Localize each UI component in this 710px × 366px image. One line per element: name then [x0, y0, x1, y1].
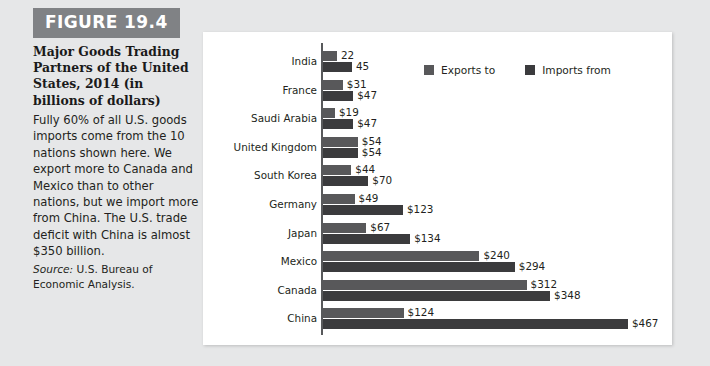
figure-container: FIGURE 19.4 Major Goods Trading Partners…	[0, 0, 710, 366]
bar-value-label: $67	[370, 221, 390, 233]
legend-item-exports: Exports to	[424, 64, 495, 76]
bar-value-label: $134	[414, 232, 440, 244]
bar-row: United Kingdom$54$54	[203, 137, 672, 164]
legend-item-imports: Imports from	[525, 64, 611, 76]
bar-imports	[323, 119, 354, 129]
bar-imports	[323, 291, 551, 301]
bar-row: Germany$49$123	[203, 194, 672, 221]
category-label: France	[117, 84, 317, 96]
bar-exports	[323, 165, 352, 175]
bar-value-label: $47	[357, 89, 377, 101]
bar-exports	[323, 108, 335, 118]
bar-imports	[323, 91, 354, 101]
chart-legend: Exports toImports from	[424, 64, 611, 76]
bar-exports	[323, 80, 343, 90]
bar-value-label: $19	[339, 106, 359, 118]
bar-row: France$31$47	[203, 80, 672, 107]
bar-value-label: 45	[356, 60, 369, 72]
bar-value-label: $124	[408, 306, 434, 318]
category-label: India	[117, 55, 317, 67]
bar-exports	[323, 223, 367, 233]
legend-label: Exports to	[441, 64, 495, 76]
bar-value-label: $49	[359, 192, 379, 204]
figure-number-badge: FIGURE 19.4	[33, 8, 180, 38]
bar-exports	[323, 51, 337, 61]
bar-exports	[323, 251, 480, 261]
bar-value-label: $240	[483, 249, 509, 261]
category-label: United Kingdom	[117, 141, 317, 153]
legend-swatch-icon	[525, 65, 535, 75]
bar-value-label: $312	[531, 278, 557, 290]
bar-value-label: $294	[519, 260, 545, 272]
category-label: Canada	[117, 284, 317, 296]
category-label: Mexico	[117, 255, 317, 267]
legend-label: Imports from	[542, 64, 611, 76]
bar-imports	[323, 176, 369, 186]
bar-row: Japan$67$134	[203, 223, 672, 250]
bar-value-label: $70	[372, 174, 392, 186]
bar-exports	[323, 280, 527, 290]
category-label: Germany	[117, 198, 317, 210]
bar-exports	[323, 194, 355, 204]
bar-row: South Korea$44$70	[203, 165, 672, 192]
bar-value-label: 22	[341, 49, 354, 61]
figure-title: Major Goods Trading Partners of the Unit…	[33, 44, 195, 109]
source-label: Source:	[33, 263, 73, 275]
bar-imports	[323, 262, 515, 272]
category-label: South Korea	[117, 169, 317, 181]
legend-swatch-icon	[424, 65, 434, 75]
bar-imports	[323, 319, 628, 329]
bar-row: China$124$467	[203, 308, 672, 335]
category-label: China	[117, 312, 317, 324]
chart-plot-area: India2245France$31$47Saudi Arabia$19$47U…	[203, 32, 672, 345]
bar-exports	[323, 137, 358, 147]
bar-value-label: $47	[357, 117, 377, 129]
bar-row: Saudi Arabia$19$47	[203, 108, 672, 135]
bar-value-label: $467	[632, 317, 658, 329]
bar-exports	[323, 308, 404, 318]
bar-imports	[323, 148, 358, 158]
category-label: Japan	[117, 227, 317, 239]
bar-imports	[323, 62, 352, 72]
bar-row: Mexico$240$294	[203, 251, 672, 278]
bar-value-label: $123	[407, 203, 433, 215]
bar-row: Canada$312$348	[203, 280, 672, 307]
bar-value-label: $54	[362, 146, 382, 158]
bar-value-label: $348	[554, 289, 580, 301]
chart-panel: India2245France$31$47Saudi Arabia$19$47U…	[203, 32, 672, 345]
bar-imports	[323, 205, 403, 215]
bar-imports	[323, 234, 411, 244]
category-label: Saudi Arabia	[117, 112, 317, 124]
